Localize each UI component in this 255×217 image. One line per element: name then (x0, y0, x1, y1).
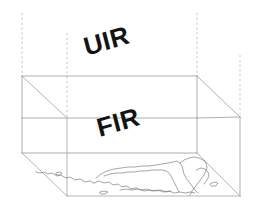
diagram-canvas: UIR FIR (0, 0, 255, 217)
fir-mid-right-depth-edge (197, 117, 240, 118)
uir-top-right-depth-edge (197, 76, 240, 117)
fir-volume-edges (22, 76, 240, 196)
coastline-path-islet-c (210, 182, 218, 186)
coastline-path-detail-ne (196, 168, 209, 184)
coastline-path-landmass (96, 161, 198, 193)
ground-plane-edges (22, 76, 240, 196)
coastline-path-inner (104, 170, 179, 192)
coastline-path-west (36, 172, 94, 183)
coastline-map (36, 157, 218, 195)
coastline-path-islet-b (100, 191, 108, 194)
ground-right-diagonal (197, 153, 240, 196)
coastline-path-islet-a (56, 172, 62, 175)
left-receding-edge (22, 76, 67, 118)
coastline-path-east-arc (180, 157, 207, 195)
